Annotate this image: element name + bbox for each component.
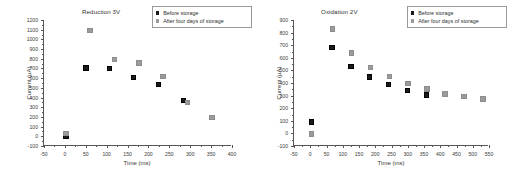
- y-tick: [41, 78, 44, 79]
- x-tick: [359, 145, 360, 148]
- x-tick: [294, 145, 295, 148]
- x-tick-label: 250: [387, 151, 396, 157]
- panel-reduction: Reduction 3V -10001002003004005006007008…: [0, 0, 255, 174]
- x-tick-label: -50: [290, 151, 297, 157]
- x-tick-label: 150: [355, 151, 364, 157]
- y-tick-minor: [292, 39, 294, 40]
- x-tick-minor: [180, 145, 181, 147]
- y-tick-minor: [292, 64, 294, 65]
- y-tick-label: 1200: [27, 17, 38, 23]
- x-tick-minor: [201, 145, 202, 147]
- legend-label-before: Before storage: [163, 10, 198, 16]
- plot-title-oxidation: Oxidation 2V: [321, 8, 358, 15]
- y-tick: [291, 133, 294, 134]
- y-tick-label: 0: [285, 130, 288, 136]
- x-tick: [375, 145, 376, 148]
- x-tick-minor: [302, 145, 303, 147]
- x-tick-label: 500: [469, 151, 478, 157]
- data-point: [348, 64, 353, 69]
- x-tick-label: 50: [83, 151, 89, 157]
- x-tick: [107, 145, 108, 148]
- x-tick-label: 250: [165, 151, 174, 157]
- y-tick-minor: [42, 35, 44, 36]
- data-point: [185, 100, 190, 105]
- y-tick-minor: [42, 112, 44, 113]
- y-tick-label: -100: [28, 143, 38, 149]
- y-tick: [41, 20, 44, 21]
- x-tick-minor: [416, 145, 417, 147]
- x-tick-minor: [222, 145, 223, 147]
- y-tick: [291, 96, 294, 97]
- y-tick: [41, 117, 44, 118]
- legend-oxidation: Before storage After four days of storag…: [407, 6, 507, 28]
- axis-title-x-oxidation: Time (ms): [378, 160, 405, 166]
- x-tick-minor: [75, 145, 76, 147]
- legend-marker-after-icon: [411, 19, 414, 22]
- x-tick-label: 300: [186, 151, 195, 157]
- x-tick-minor: [367, 145, 368, 147]
- y-tick-label: 900: [30, 46, 39, 52]
- data-point: [209, 115, 214, 120]
- x-tick: [86, 145, 87, 148]
- data-point: [368, 65, 373, 70]
- x-tick-minor: [481, 145, 482, 147]
- y-tick: [41, 136, 44, 137]
- x-tick: [190, 145, 191, 148]
- y-tick: [41, 88, 44, 89]
- y-tick-label: 1000: [27, 36, 38, 42]
- y-tick: [41, 98, 44, 99]
- y-tick-minor: [292, 26, 294, 27]
- y-tick-label: -100: [278, 143, 288, 149]
- y-tick-minor: [42, 83, 44, 84]
- data-point: [309, 119, 314, 124]
- y-tick-label: 200: [30, 114, 39, 120]
- data-point: [156, 82, 161, 87]
- x-tick-minor: [400, 145, 401, 147]
- y-tick-minor: [42, 73, 44, 74]
- x-tick-minor: [448, 145, 449, 147]
- x-tick-minor: [54, 145, 55, 147]
- y-tick-minor: [42, 93, 44, 94]
- y-tick-minor: [292, 52, 294, 53]
- y-tick-minor: [292, 127, 294, 128]
- y-tick: [41, 49, 44, 50]
- data-point: [480, 96, 485, 101]
- x-tick-label: 400: [436, 151, 445, 157]
- x-tick-label: 0: [309, 151, 312, 157]
- data-point: [386, 82, 391, 87]
- y-tick: [291, 20, 294, 21]
- legend-marker-after-icon: [156, 19, 159, 22]
- data-point: [367, 74, 372, 79]
- x-tick-minor: [383, 145, 384, 147]
- x-tick: [128, 145, 129, 148]
- y-tick: [291, 58, 294, 59]
- data-point: [131, 75, 136, 80]
- x-tick-label: 350: [207, 151, 216, 157]
- y-tick-label: 200: [280, 105, 289, 111]
- x-tick: [310, 145, 311, 148]
- x-tick-minor: [335, 145, 336, 147]
- y-tick-minor: [42, 141, 44, 142]
- x-tick: [44, 145, 45, 148]
- data-point: [405, 88, 410, 93]
- x-tick: [65, 145, 66, 148]
- plot-area-oxidation: -1000100200300400500600700800900-5005010…: [293, 20, 488, 146]
- y-tick-minor: [42, 102, 44, 103]
- y-tick-minor: [292, 102, 294, 103]
- y-tick-label: 1100: [27, 27, 38, 33]
- x-tick: [457, 145, 458, 148]
- y-tick: [291, 121, 294, 122]
- y-tick-label: 600: [280, 55, 289, 61]
- data-point: [424, 86, 429, 91]
- x-tick-minor: [318, 145, 319, 147]
- y-tick: [41, 68, 44, 69]
- x-tick-minor: [117, 145, 118, 147]
- x-tick-label: 400: [228, 151, 237, 157]
- legend-reduction: Before storage After four days of storag…: [152, 6, 252, 28]
- x-tick-label: 550: [485, 151, 494, 157]
- y-tick-minor: [42, 122, 44, 123]
- x-tick-minor: [432, 145, 433, 147]
- legend-item-before: Before storage: [156, 9, 247, 17]
- y-tick-minor: [42, 64, 44, 65]
- legend-item-after: After four days of storage: [411, 17, 502, 25]
